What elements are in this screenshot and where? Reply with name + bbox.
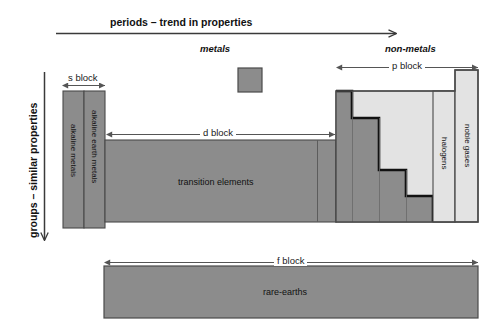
non-metals-label: non-metals — [385, 44, 436, 54]
cell-label-alkaline-metals: alkaline metals — [69, 124, 77, 177]
f-block-label: f block — [274, 256, 307, 266]
groups-axis-label: groups – similar properties — [28, 103, 39, 238]
periods-axis-label: periods – trend in properties — [110, 17, 252, 28]
p-block-label: p block — [389, 61, 425, 71]
cell-label-transition-elements: transition elements — [178, 178, 254, 187]
cell-label-halogens: halogens — [440, 137, 448, 169]
s-block-label: s block — [66, 73, 100, 83]
cell-label-noble-gases: noble gases — [463, 124, 471, 167]
cell-label-rare-earths: rare-earths — [263, 288, 307, 297]
diagram-canvas: periods – trend in properties metals non… — [0, 0, 503, 332]
metals-label: metals — [200, 44, 230, 54]
cell-label-alkaline-earth-metals: alkaline earth metals — [90, 110, 98, 183]
metalloid-swatch — [238, 68, 262, 92]
d-block-label: d block — [200, 128, 236, 138]
